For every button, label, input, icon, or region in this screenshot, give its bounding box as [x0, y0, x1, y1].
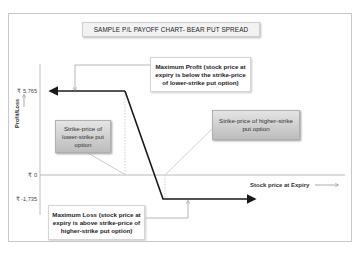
- higher-strike-connector: [166, 128, 213, 174]
- y-axis-title: Profit/Loss: [14, 99, 20, 128]
- max-loss-connector: [145, 201, 188, 218]
- higher-strike-callout: Strike-price of higher-strike put option: [212, 110, 300, 140]
- lower-strike-callout: Strike-price of lower-strike put option: [55, 120, 111, 153]
- y-label-max: ₹ 5,765: [3, 88, 37, 94]
- y-label-min: ₹ -1,735: [3, 196, 37, 202]
- max-profit-callout: Maximum Profit (stock price at expiry is…: [150, 57, 251, 92]
- payoff-line: [125, 91, 255, 199]
- max-loss-callout: Maximum Loss (stock price at expiry is a…: [48, 205, 145, 240]
- max-profit-connector: [75, 65, 150, 90]
- lower-strike-connector: [88, 153, 124, 174]
- x-axis-title: Stock price at Expiry: [250, 182, 309, 188]
- y-label-zero: ₹ 0: [3, 172, 37, 178]
